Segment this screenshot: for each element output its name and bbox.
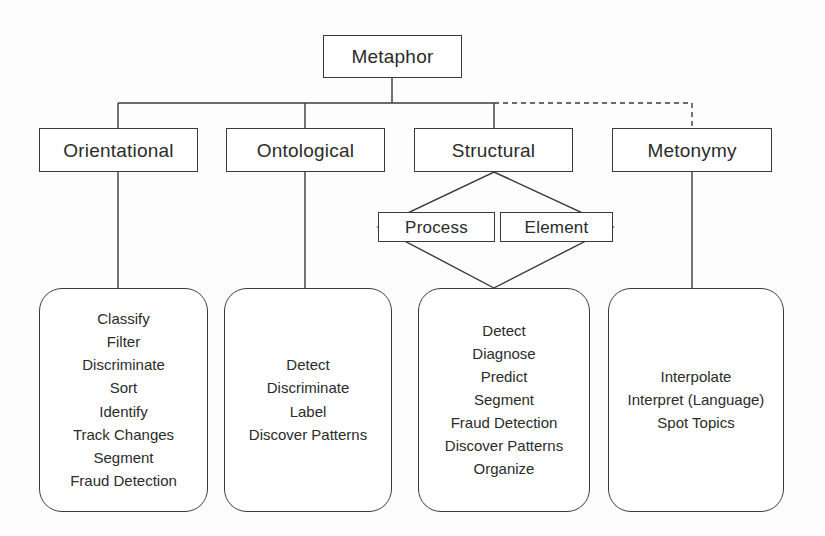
node-ontological-label: Ontological xyxy=(257,141,354,160)
list-item: Spot Topics xyxy=(657,412,734,434)
list-item: Filter xyxy=(107,331,140,353)
list-item: Organize xyxy=(474,458,535,480)
list-item: Classify xyxy=(97,308,150,330)
node-process-label: Process xyxy=(405,219,468,236)
list-item: Interpret (Language) xyxy=(628,389,765,411)
node-orientational-label: Orientational xyxy=(63,141,173,160)
task-list-metonymy[interactable]: Interpolate Interpret (Language) Spot To… xyxy=(608,288,784,512)
list-item: Diagnose xyxy=(472,343,535,365)
list-item: Label xyxy=(290,401,327,423)
node-element-label: Element xyxy=(525,219,589,236)
list-item: Discover Patterns xyxy=(445,435,563,457)
connector-metonymy-dashed xyxy=(494,103,692,128)
list-item: Interpolate xyxy=(661,366,732,388)
node-ontological[interactable]: Ontological xyxy=(226,128,385,172)
node-element[interactable]: Element xyxy=(500,212,613,242)
task-list-items: Interpolate Interpret (Language) Spot To… xyxy=(617,366,775,434)
list-item: Detect xyxy=(482,320,525,342)
list-item: Discriminate xyxy=(267,377,350,399)
list-item: Identify xyxy=(99,401,147,423)
list-item: Track Changes xyxy=(73,424,174,446)
list-item: Fraud Detection xyxy=(451,412,558,434)
task-list-items: Detect Discriminate Label Discover Patte… xyxy=(233,354,383,445)
list-item: Predict xyxy=(481,366,528,388)
node-metaphor-label: Metaphor xyxy=(352,47,434,66)
node-metonymy[interactable]: Metonymy xyxy=(612,128,772,172)
node-metaphor[interactable]: Metaphor xyxy=(323,35,462,78)
task-list-structural[interactable]: Detect Diagnose Predict Segment Fraud De… xyxy=(418,288,590,512)
list-item: Segment xyxy=(93,447,153,469)
task-list-items: Detect Diagnose Predict Segment Fraud De… xyxy=(427,320,581,480)
node-process[interactable]: Process xyxy=(378,212,495,242)
list-item: Segment xyxy=(474,389,534,411)
list-item: Detect xyxy=(286,354,329,376)
node-structural-label: Structural xyxy=(452,141,535,160)
node-structural[interactable]: Structural xyxy=(414,128,573,172)
task-list-items: Classify Filter Discriminate Sort Identi… xyxy=(48,308,199,491)
node-metonymy-label: Metonymy xyxy=(647,141,736,160)
list-item: Sort xyxy=(110,377,138,399)
list-item: Discriminate xyxy=(82,354,165,376)
node-orientational[interactable]: Orientational xyxy=(39,128,198,172)
list-item: Fraud Detection xyxy=(70,470,177,492)
task-list-ontological[interactable]: Detect Discriminate Label Discover Patte… xyxy=(224,288,392,512)
list-item: Discover Patterns xyxy=(249,424,367,446)
task-list-orientational[interactable]: Classify Filter Discriminate Sort Identi… xyxy=(39,288,208,512)
diagram-canvas: Metaphor Orientational Ontological Struc… xyxy=(0,0,825,536)
